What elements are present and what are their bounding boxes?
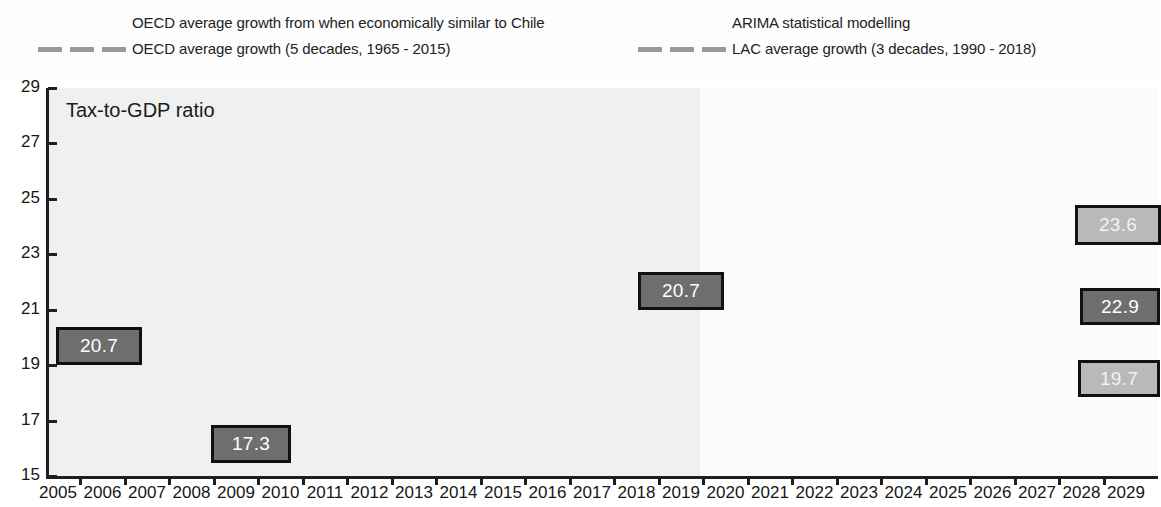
y-tick-23: [48, 253, 57, 256]
data-label-23-6-2029: 23.6: [1075, 205, 1161, 245]
y-tick-25: [48, 198, 57, 201]
legend-column-left: OECD average growth from when economical…: [36, 10, 545, 62]
legend-key-dashed-line-icon-2: [636, 36, 732, 62]
plot-background-forecast: [700, 88, 1158, 476]
legend-key-blank-icon: [36, 10, 132, 36]
y-tick-21: [48, 309, 57, 312]
x-tick-label-2029: 2029: [1100, 483, 1152, 503]
legend-label-lac-3-decades: LAC average growth (3 decades, 1990 - 20…: [732, 41, 1036, 57]
y-tick-27: [48, 142, 57, 145]
plot-area: [48, 88, 1158, 476]
y-tick-label-29: 29: [0, 77, 40, 97]
y-tick-label-21: 21: [0, 299, 40, 319]
legend-item-arima: ARIMA statistical modelling: [636, 10, 1036, 36]
legend-key-blank-icon-2: [636, 10, 732, 36]
data-label-20-7-2018: 20.7: [638, 272, 724, 310]
y-tick-label-19: 19: [0, 354, 40, 374]
data-label-20-7-2005: 20.7: [56, 327, 142, 365]
chart-legend: OECD average growth from when economical…: [0, 0, 1158, 78]
legend-item-lac-3-decades: LAC average growth (3 decades, 1990 - 20…: [636, 36, 1036, 62]
plot-background-historical: [48, 88, 700, 476]
legend-item-oecd-similar: OECD average growth from when economical…: [36, 10, 545, 36]
data-label-19-7-2029: 19.7: [1078, 360, 1160, 397]
y-tick-29: [48, 87, 57, 90]
y-tick-label-15: 15: [0, 465, 40, 485]
plot-title: Tax-to-GDP ratio: [66, 99, 215, 122]
y-tick-17: [48, 420, 57, 423]
legend-label-arima: ARIMA statistical modelling: [732, 15, 910, 31]
legend-column-right: ARIMA statistical modelling LAC average …: [636, 10, 1036, 62]
legend-label-oecd-similar: OECD average growth from when economical…: [132, 15, 545, 31]
legend-item-oecd-5-decades: OECD average growth (5 decades, 1965 - 2…: [36, 36, 545, 62]
y-tick-15: [48, 475, 57, 478]
data-label-22-9-2029: 22.9: [1080, 288, 1160, 325]
y-tick-label-17: 17: [0, 410, 40, 430]
legend-key-dashed-line-icon: [36, 36, 132, 62]
y-tick-label-25: 25: [0, 188, 40, 208]
y-tick-label-27: 27: [0, 132, 40, 152]
y-tick-label-23: 23: [0, 243, 40, 263]
legend-label-oecd-5-decades: OECD average growth (5 decades, 1965 - 2…: [132, 41, 450, 57]
data-label-17-3-2009: 17.3: [211, 425, 291, 463]
